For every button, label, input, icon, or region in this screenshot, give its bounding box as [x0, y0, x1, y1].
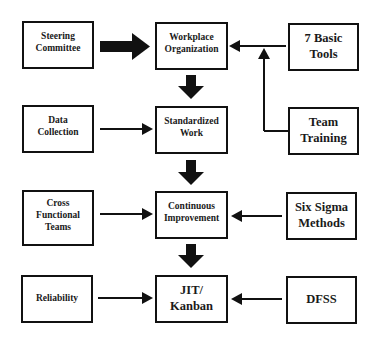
- arrow-reliability-to-jit: [98, 292, 153, 304]
- thick-arrow-continuous-to-jit: [178, 244, 204, 268]
- arrow-training-to-workplace: [258, 48, 288, 131]
- arrow-data-to-standardized: [100, 123, 153, 135]
- node-label: Reliability: [36, 293, 78, 305]
- node-label: Functional: [36, 210, 80, 222]
- node-label: Committee: [36, 43, 81, 55]
- node-label: Data: [37, 115, 78, 127]
- node-label: Teams: [36, 222, 80, 234]
- node-jit-kanban: JIT/Kanban: [155, 275, 228, 323]
- node-reliability: Reliability: [21, 275, 93, 323]
- node-standardized-work: StandardizedWork: [155, 106, 228, 154]
- node-continuous-improvement: ContinuousImprovement: [155, 191, 228, 239]
- node-data-collection: DataCollection: [22, 105, 94, 153]
- arrow-tools-to-workplace: [229, 40, 286, 52]
- node-label: Continuous: [164, 201, 219, 213]
- node-cross-functional-teams: CrossFunctionalTeams: [22, 190, 94, 246]
- node-label: Six Sigma: [295, 200, 348, 216]
- thick-arrow-steering-to-workplace: [100, 33, 150, 60]
- node-label: Cross: [36, 198, 80, 210]
- node-label: Work: [164, 128, 218, 140]
- arrow-cross-to-continuous: [100, 208, 153, 220]
- node-workplace-organization: WorkplaceOrganization: [155, 22, 228, 70]
- node-label: DFSS: [306, 292, 337, 308]
- node-label: Team: [300, 115, 346, 131]
- node-steering-committee: SteeringCommittee: [22, 21, 94, 69]
- node-dfss: DFSS: [286, 276, 357, 324]
- node-label: Workplace: [165, 32, 219, 44]
- arrow-sixsigma-to-continuous: [231, 210, 282, 222]
- node-label: JIT/: [170, 283, 213, 299]
- node-six-sigma-methods: Six SigmaMethods: [286, 192, 357, 240]
- node-7-basic-tools: 7 BasicTools: [288, 23, 359, 71]
- thick-arrow-workplace-to-standardized: [178, 75, 204, 99]
- node-team-training: TeamTraining: [288, 107, 359, 155]
- node-label: Improvement: [164, 213, 219, 225]
- node-label: Training: [300, 131, 346, 147]
- arrow-dfss-to-jit: [231, 293, 282, 305]
- node-label: Methods: [295, 216, 348, 232]
- node-label: Standardized: [164, 116, 218, 128]
- node-label: Kanban: [170, 299, 213, 315]
- node-label: Organization: [165, 44, 219, 56]
- node-label: 7 Basic: [305, 31, 343, 47]
- node-label: Collection: [37, 127, 78, 139]
- node-label: Tools: [305, 47, 343, 63]
- thick-arrow-standardized-to-continuous: [178, 160, 204, 185]
- node-label: Steering: [36, 31, 81, 43]
